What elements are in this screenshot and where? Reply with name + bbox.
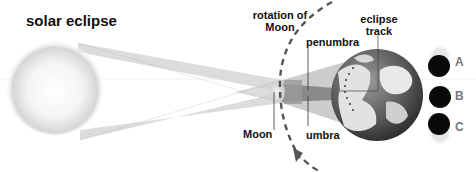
rotation-label-line2: Moon — [250, 21, 310, 33]
rotation-label: rotation of Moon — [250, 9, 310, 33]
moon-label: Moon — [243, 128, 272, 140]
phase-a — [428, 44, 452, 77]
diagram-title: solar eclipse — [26, 13, 117, 29]
phase-c — [428, 113, 452, 146]
eclipse-track-label: eclipse track — [357, 13, 401, 37]
phase-b-label: B — [455, 90, 464, 102]
rotation-label-line1: rotation of — [250, 9, 310, 21]
solar-eclipse-diagram: solar eclipse rotation of Moon penumbra … — [0, 0, 476, 172]
upper-beam — [78, 43, 282, 92]
rotation-arrowhead — [293, 148, 303, 162]
umbra-label: umbra — [306, 129, 340, 141]
phase-b — [428, 85, 452, 109]
eclipse-track-line1: eclipse — [357, 13, 401, 25]
phase-c-label: C — [455, 121, 464, 133]
eclipse-track-line2: track — [357, 25, 401, 37]
sun — [5, 35, 105, 135]
moon — [271, 81, 285, 103]
penumbra-label: penumbra — [306, 36, 359, 48]
phase-a-label: A — [455, 56, 464, 68]
